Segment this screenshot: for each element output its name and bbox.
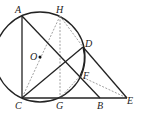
- label-a: A: [14, 4, 22, 15]
- label-c: C: [15, 100, 22, 111]
- label-e: E: [126, 95, 133, 106]
- circle-o: [0, 12, 85, 102]
- label-g: G: [56, 100, 63, 111]
- segment-hd: [60, 16, 83, 47]
- label-o: O: [30, 51, 37, 62]
- label-h: H: [55, 4, 64, 15]
- segment-de: [83, 47, 127, 98]
- geometry-diagram: A H D O F C G B E: [0, 0, 142, 117]
- label-d: D: [84, 38, 93, 49]
- label-f: F: [82, 70, 90, 81]
- center-dot: [39, 56, 42, 59]
- segment-fg: [60, 76, 80, 98]
- label-b: B: [97, 100, 103, 111]
